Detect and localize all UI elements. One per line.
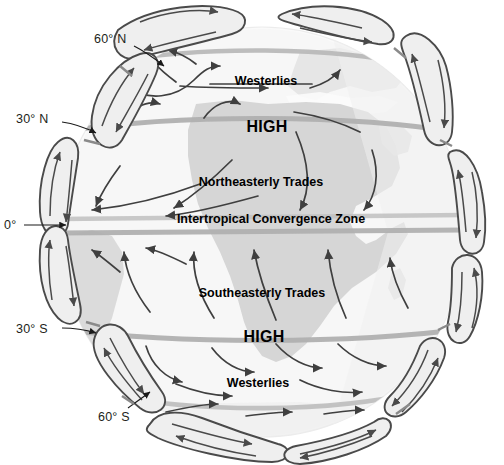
label-southeasterly-trades: Southeasterly Trades [199,286,325,300]
lat-label-60n: 60° N [94,32,126,46]
diagram-canvas: 60° N 30° N 0° 30° S 60° S Westerlies HI… [0,0,504,465]
band-equator [56,230,470,233]
cell-hadley-se [447,255,482,343]
label-intertropical-convergence-zone: Intertropical Convergence Zone [177,212,365,226]
label-high-south: HIGH [243,328,284,346]
label-northeasterly-trades: Northeasterly Trades [199,175,323,189]
label-westerlies-south: Westerlies [227,376,289,390]
label-high-north: HIGH [246,118,287,136]
label-westerlies-north: Westerlies [235,74,297,88]
lat-label-30s: 30° S [16,322,48,336]
lat-label-30n: 30° N [16,112,48,126]
global-circulation-svg [0,0,504,465]
lat-label-0: 0° [4,218,16,232]
lat-label-60s: 60° S [98,410,130,424]
